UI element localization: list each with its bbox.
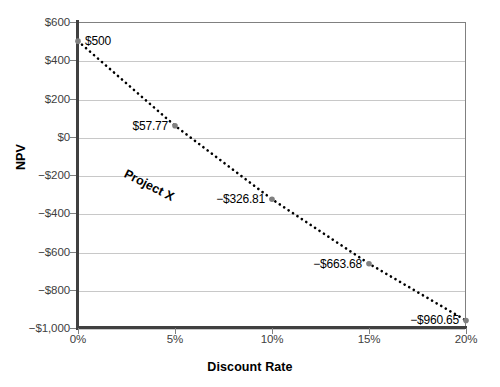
y-tick-label: −$400 <box>38 207 70 219</box>
y-tick-label: $0 <box>57 131 70 143</box>
y-tick-label: $600 <box>45 16 70 28</box>
y-tick-label: −$800 <box>38 284 70 296</box>
gridline <box>78 100 465 101</box>
y-tick-label: −$200 <box>38 169 70 181</box>
y-axis-line <box>76 20 79 330</box>
y-tick-label: −$1,000 <box>29 322 70 334</box>
y-tick-mark <box>70 290 76 291</box>
y-axis-title: NPV <box>14 142 28 172</box>
y-tick-mark <box>70 22 76 23</box>
gridline <box>78 138 465 139</box>
data-point-label: −$960.65 <box>410 313 459 327</box>
gridline <box>78 61 465 62</box>
x-tick-label: 20% <box>455 333 478 345</box>
y-tick-mark <box>70 99 76 100</box>
y-tick-label: $200 <box>45 93 70 105</box>
y-tick-label: $400 <box>45 54 70 66</box>
y-tick-mark <box>70 137 76 138</box>
x-tick-label: 15% <box>358 333 381 345</box>
y-tick-mark <box>70 60 76 61</box>
data-point-label: −$326.81 <box>216 192 265 206</box>
data-point-label: $57.77 <box>132 119 168 133</box>
y-tick-mark <box>70 252 76 253</box>
y-tick-mark <box>70 328 76 329</box>
y-tick-label: −$600 <box>38 246 70 258</box>
npv-profile-chart: $600$400$200$0−$200−$400−$600−$800−$1,00… <box>0 0 500 387</box>
x-tick-label: 5% <box>167 333 183 345</box>
y-tick-mark <box>70 175 76 176</box>
x-tick-label: 10% <box>261 333 284 345</box>
gridline <box>78 253 465 254</box>
gridline <box>78 214 465 215</box>
gridline <box>78 291 465 292</box>
data-point-label: $500 <box>85 34 111 48</box>
data-point-label: −$663.68 <box>313 257 362 271</box>
x-axis-title: Discount Rate <box>0 360 500 374</box>
x-tick-label: 0% <box>70 333 86 345</box>
y-tick-mark <box>70 213 76 214</box>
